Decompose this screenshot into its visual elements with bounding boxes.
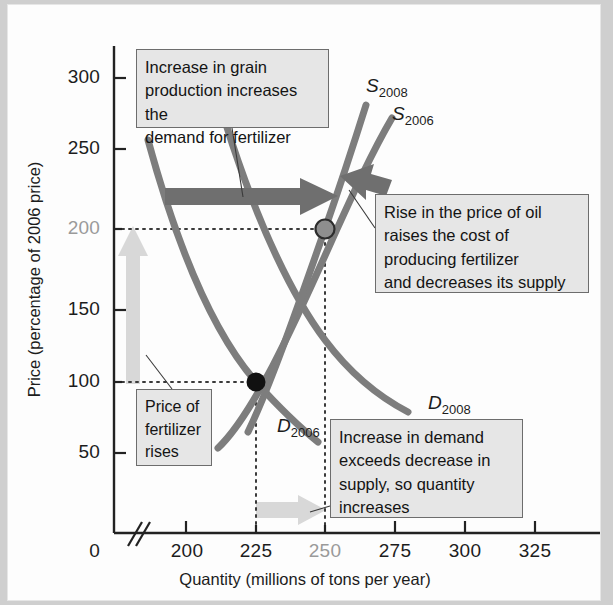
curve-label-d2006-sub: 2006 xyxy=(291,425,320,440)
x-tick-250: 250 xyxy=(304,540,346,562)
callout-quantity-increases: Increase in demand exceeds decrease in s… xyxy=(330,419,523,518)
supply-curve-2008 xyxy=(248,105,366,432)
x-tick-300: 300 xyxy=(444,540,486,562)
curve-label-s2006-main: S xyxy=(392,103,405,124)
axis-origin-label: 0 xyxy=(40,540,100,562)
y-tick-200: 200 xyxy=(40,217,100,239)
curve-label-d2008: D2008 xyxy=(428,392,471,417)
y-axis-ticks xyxy=(114,78,126,453)
x-axis-ticks xyxy=(186,521,535,533)
y-tick-250: 250 xyxy=(40,137,100,159)
curve-label-s2006: S2006 xyxy=(392,103,434,128)
curve-label-s2008-sub: 2008 xyxy=(379,85,408,100)
y-axis-title: Price (percentage of 2006 price) xyxy=(25,150,44,410)
equilibrium-2006-marker xyxy=(247,373,266,392)
x-tick-325: 325 xyxy=(514,540,556,562)
callout-oil-price: Rise in the price of oil raises the cost… xyxy=(375,194,589,293)
price-rise-arrow xyxy=(118,226,148,384)
y-tick-100: 100 xyxy=(40,370,100,392)
curve-label-s2008: S2008 xyxy=(366,75,408,100)
y-tick-50: 50 xyxy=(40,441,100,463)
y-tick-150: 150 xyxy=(40,298,100,320)
curve-label-d2006-main: D xyxy=(277,415,291,436)
x-tick-225: 225 xyxy=(235,540,277,562)
curve-label-s2006-sub: 2006 xyxy=(405,113,434,128)
demand-shift-arrow xyxy=(165,178,338,215)
callout-price-rises: Price of fertilizer rises xyxy=(136,389,212,466)
leader-line-price xyxy=(146,355,172,389)
figure-container: 300 250 200 150 100 50 0 200 225 250 275… xyxy=(0,0,613,605)
y-tick-300: 300 xyxy=(40,66,100,88)
curve-label-d2008-main: D xyxy=(428,392,442,413)
x-tick-200: 200 xyxy=(166,540,208,562)
x-tick-275: 275 xyxy=(374,540,416,562)
equilibrium-2008-marker xyxy=(316,220,335,239)
x-axis-title: Quantity (millions of tons per year) xyxy=(155,570,455,589)
curve-label-d2008-sub: 2008 xyxy=(442,402,471,417)
callout-demand-increase: Increase in grain production increases t… xyxy=(136,49,329,128)
curve-label-d2006: D2006 xyxy=(277,415,320,440)
curve-label-s2008-main: S xyxy=(366,75,379,96)
